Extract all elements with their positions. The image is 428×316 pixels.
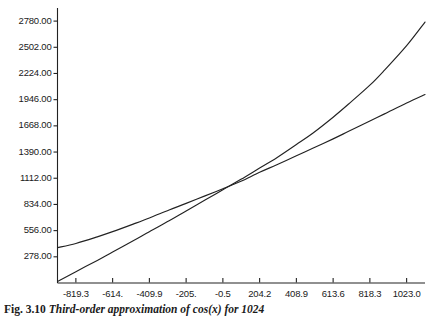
caption-text: Third-order approximation of cos(x) for …: [49, 303, 265, 315]
y-tick-label: 1946.00: [19, 93, 52, 104]
y-tick-label: 2224.00: [19, 67, 52, 78]
x-tick-label: 1023.0: [377, 288, 428, 299]
plot-area: [0, 0, 428, 316]
y-tick-label: 1390.00: [19, 146, 52, 157]
y-tick-label: 2502.00: [19, 41, 52, 52]
series-line-upper: [58, 22, 426, 282]
x-tick-marks: [76, 278, 407, 283]
series-line-lower: [58, 95, 426, 248]
caption-label: Fig. 3.10: [4, 303, 46, 315]
y-tick-label: 278.00: [24, 250, 52, 261]
y-tick-label: 1668.00: [19, 119, 52, 130]
figure-caption: Fig. 3.10 Third-order approximation of c…: [4, 303, 424, 316]
y-tick-label: 2780.00: [19, 15, 52, 26]
y-tick-label: 556.00: [24, 224, 52, 235]
figure-container: 278.00556.00834.001112.001390.001668.001…: [0, 0, 428, 316]
y-tick-label: 834.00: [24, 198, 52, 209]
y-tick-label: 1112.00: [20, 172, 52, 183]
